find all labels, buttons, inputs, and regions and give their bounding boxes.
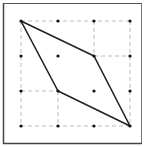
grid-dot [56,89,59,92]
grid-dot [19,124,22,127]
grid-dot [92,54,95,57]
grid-dot [128,124,131,127]
grid-dot [56,124,59,127]
grid-dot [56,54,59,57]
grid-dot [128,54,131,57]
grid-dot [19,19,22,22]
frame-border [4,4,142,144]
grid-dot [128,19,131,22]
grid-dot [19,54,22,57]
diagram-canvas [0,0,145,147]
grid-dot [128,89,131,92]
grid-dot [19,89,22,92]
grid-dot [92,124,95,127]
grid-dot [56,19,59,22]
grid-dot [92,19,95,22]
grid-dot [92,89,95,92]
